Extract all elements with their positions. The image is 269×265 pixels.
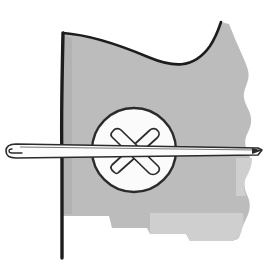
- illustration-canvas: Sewing a button onto fabric Line drawing…: [0, 0, 269, 265]
- fabric-left-shadow: [64, 36, 72, 214]
- sewing-illustration-svg: [0, 0, 269, 265]
